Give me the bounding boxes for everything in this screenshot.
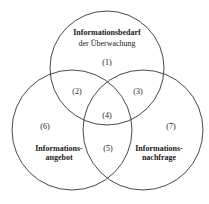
right-circle-title-line1: Informations- bbox=[135, 144, 183, 153]
right-circle-title-line2: nachfrage bbox=[135, 153, 183, 162]
region-label-6: (6) bbox=[40, 122, 49, 131]
region-label-5: (5) bbox=[103, 144, 112, 153]
left-circle-title-line2: angebot bbox=[35, 153, 83, 162]
top-circle-title: Informationsbedarf der Überwachung bbox=[73, 28, 141, 48]
right-circle-title: Informations- nachfrage bbox=[135, 144, 183, 162]
region-label-2: (2) bbox=[72, 87, 81, 96]
region-label-1: (1) bbox=[102, 58, 111, 67]
region-label-7: (7) bbox=[166, 122, 175, 131]
circle-informationsnachfrage bbox=[83, 70, 203, 190]
left-circle-title: Informations- angebot bbox=[35, 144, 83, 162]
region-label-4: (4) bbox=[102, 111, 111, 120]
left-circle-title-line1: Informations- bbox=[35, 144, 83, 153]
top-circle-title-line2: der Überwachung bbox=[73, 39, 141, 48]
top-circle-title-line1: Informationsbedarf bbox=[73, 28, 141, 37]
region-label-3: (3) bbox=[133, 87, 142, 96]
